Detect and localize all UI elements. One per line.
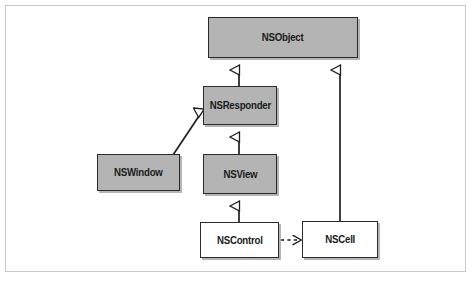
- class-node-nsresponder[interactable]: NSResponder: [203, 86, 277, 125]
- class-node-label: NSResponder: [209, 100, 270, 111]
- edge-nswindow-to-nsresponder: [173, 113, 201, 155]
- class-node-nscontrol[interactable]: NSControl: [200, 222, 279, 258]
- class-node-nswindow[interactable]: NSWindow: [97, 154, 180, 191]
- class-node-nsobject[interactable]: NSObject: [208, 17, 358, 58]
- figure-canvas: NSObject NSResponder NSWindow NSView NSC…: [0, 0, 475, 286]
- class-node-label: NSControl: [217, 235, 263, 246]
- class-node-label: NSCell: [325, 234, 355, 245]
- class-node-label: NSObject: [262, 32, 304, 43]
- class-node-nscell[interactable]: NSCell: [302, 221, 378, 258]
- class-node-label: NSView: [223, 169, 257, 180]
- class-node-label: NSWindow: [114, 167, 163, 178]
- class-node-nsview[interactable]: NSView: [203, 154, 277, 194]
